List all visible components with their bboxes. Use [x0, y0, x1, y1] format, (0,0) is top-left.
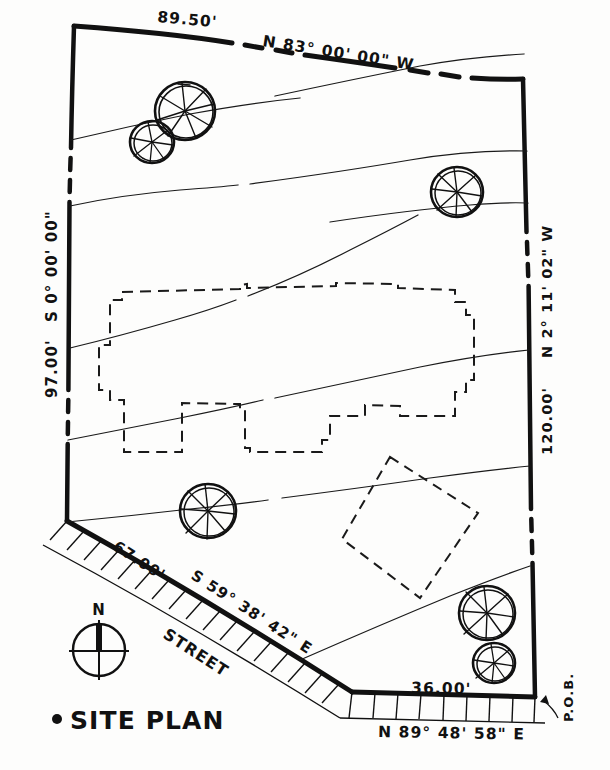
east-bearing-label: N 2° 11' 02" W: [539, 225, 555, 358]
sidewalk-tie: [373, 693, 375, 718]
pob-arrowhead-icon: [540, 695, 549, 704]
tree-symbol: [130, 121, 174, 163]
sidewalk-tie: [237, 632, 254, 651]
tree-symbol: [473, 643, 515, 683]
contour-line: [67, 500, 268, 522]
west-bearing-label: S 0° 00' 00": [43, 210, 61, 322]
title-text: SITE PLAN: [70, 706, 225, 735]
south-bearing-label: N 89° 48' 58" E: [378, 723, 525, 744]
sidewalk-tie: [305, 674, 322, 693]
sidewalk-tie: [271, 653, 288, 672]
north-bearing-label: N 83° 00' 00" W: [261, 32, 415, 74]
boundary-west-upper: [71, 26, 74, 148]
contour-line: [300, 566, 530, 660]
contour-line: [250, 151, 527, 184]
tree-symbol: [431, 167, 483, 217]
tree-symbol: [459, 586, 515, 640]
south-distance-label: 36.00': [411, 679, 472, 698]
north-distance-label: 89.50': [157, 8, 219, 31]
west-distance-label: 97.00': [43, 339, 61, 398]
pob-label: P.O.B.: [561, 673, 576, 722]
sidewalk-tie: [254, 642, 271, 661]
east-distance-label: 120.00': [539, 387, 555, 455]
contour-line: [275, 350, 529, 398]
sidewalk-tie: [186, 600, 203, 619]
tree-symbol: [180, 484, 236, 539]
sidewalk-tie: [67, 531, 84, 550]
boundary-north-solid-corner: [472, 78, 523, 79]
contour-line: [282, 466, 530, 498]
compass-north-label: N: [92, 601, 106, 619]
point-of-beginning-marker: P.O.B.: [540, 673, 576, 722]
boundary-north-dash-1: [245, 45, 262, 48]
sidewalk-tie: [419, 694, 421, 719]
sidewalk-tie: [220, 621, 237, 640]
sidewalk-tie: [443, 695, 444, 720]
sidewalk-tie: [534, 697, 535, 722]
detached-structure-outline: [342, 457, 478, 598]
sidewalk-tie: [50, 521, 67, 540]
site-plan-drawing: N SITE PLAN 89.50' N 83° 00' 00" W 97.00…: [0, 0, 610, 770]
boundary-east-upper: [523, 79, 527, 232]
contour-line: [71, 98, 300, 140]
street-label: STREET: [160, 624, 233, 680]
site-plan-sheet: N SITE PLAN 89.50' N 83° 00' 00" W 97.00…: [0, 0, 610, 770]
boundary-west-middle: [68, 202, 69, 390]
sidewalk-tie: [489, 696, 490, 721]
north-arrow: N: [69, 601, 129, 680]
title-bullet-icon: [52, 714, 62, 724]
boundary-north-dash-4: [441, 74, 459, 77]
contour-line: [248, 215, 418, 296]
sidewalk-tie: [84, 541, 101, 560]
contour-line: [68, 400, 263, 440]
contour-line: [330, 203, 528, 222]
sidewalk-tie: [288, 663, 305, 682]
sidewalk-tie: [466, 695, 467, 721]
boundary-east-lower: [533, 563, 536, 697]
sidewalk-tie: [203, 611, 220, 630]
sidewalk-tie: [169, 590, 186, 609]
contour-line: [70, 185, 238, 206]
detached-structure-footprint: [342, 457, 478, 598]
drawing-title: SITE PLAN: [52, 706, 225, 735]
boundary-east-middle: [529, 286, 531, 509]
sidewalk-tie: [322, 684, 339, 703]
contour-line: [70, 300, 236, 348]
sidewalk-tie: [152, 580, 169, 599]
southwest-bearing-label: S 59° 38' 42" E: [188, 566, 316, 658]
boundary-west-lower: [67, 444, 68, 521]
sidewalk-tie: [512, 696, 513, 722]
sidewalk-tie: [396, 693, 398, 719]
sidewalk-tie: [349, 692, 352, 718]
